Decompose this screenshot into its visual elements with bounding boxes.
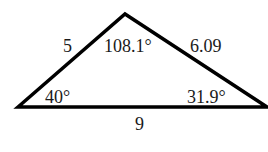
angle-label-top: 108.1° [104,36,152,56]
side-label-left: 5 [63,36,72,56]
angle-label-left: 40° [45,87,70,107]
angle-label-right: 31.9° [187,87,226,107]
triangle-diagram: 5 108.1° 6.09 40° 31.9° 9 [0,0,268,152]
side-label-right: 6.09 [190,36,222,56]
side-label-bottom: 9 [135,114,144,134]
